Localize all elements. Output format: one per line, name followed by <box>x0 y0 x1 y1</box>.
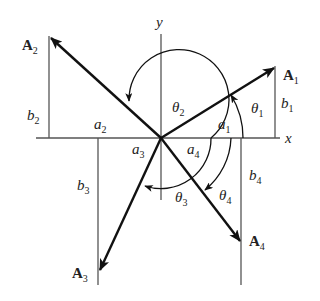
vector-a1-label: A1 <box>283 67 299 86</box>
x-axis-label: x <box>284 130 292 146</box>
y-axis-label: y <box>154 14 163 30</box>
vector-a2-arrow <box>51 38 161 138</box>
vector-a3-arrow <box>100 138 161 270</box>
b3-label: b3 <box>77 177 90 196</box>
vector-a2-label: A2 <box>22 37 38 56</box>
theta4-arc <box>205 138 231 190</box>
theta3-arc <box>145 138 211 189</box>
a4-label: a4 <box>187 141 200 160</box>
b1-label: b1 <box>281 95 294 114</box>
theta1-label: θ1 <box>251 100 263 119</box>
vector-a3-label: A3 <box>72 265 88 284</box>
theta3-label: θ3 <box>175 189 187 208</box>
vector-diagram: x y A1 A2 A3 A4 b1 b2 b3 b4 a1 a2 a3 a4 … <box>0 0 320 301</box>
theta4-label: θ4 <box>219 187 231 206</box>
a1-label: a1 <box>218 116 231 135</box>
theta2-arc <box>129 50 229 138</box>
b2-label: b2 <box>27 107 40 126</box>
theta1-arc <box>231 95 243 138</box>
a3-label: a3 <box>132 141 145 160</box>
b4-label: b4 <box>249 167 262 186</box>
a2-label: a2 <box>94 116 107 135</box>
vector-a4-label: A4 <box>249 233 265 252</box>
theta2-label: θ2 <box>172 99 184 118</box>
